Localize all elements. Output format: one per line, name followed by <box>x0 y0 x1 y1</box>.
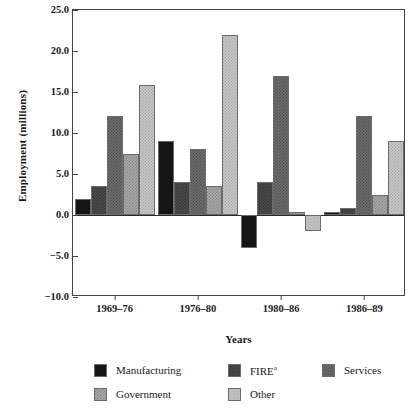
bar-manufacturing-1980–86 <box>241 215 257 248</box>
x-tick-label: 1980–86 <box>263 303 300 314</box>
x-tick-mark <box>281 295 282 300</box>
legend-item-manufacturing[interactable]: Manufacturing <box>94 358 228 382</box>
bar-other-1986–89 <box>388 141 404 215</box>
y-tick-mark <box>73 92 78 93</box>
y-tick-mark <box>73 215 78 216</box>
legend-label-fire: FIREa <box>250 364 277 377</box>
y-tick-label: 15.0 <box>51 87 73 98</box>
chart-legend: ManufacturingFIREaServicesGovernmentOthe… <box>0 358 419 406</box>
bar-services-1976–80 <box>190 149 206 215</box>
y-tick-label: 25.0 <box>51 5 73 16</box>
plot-area: 25.020.015.010.05.00.0−5.0−10.0 1969–761… <box>72 9 405 296</box>
zero-line <box>73 215 404 216</box>
bar-other-1980–86 <box>305 215 321 231</box>
legend-label-other: Other <box>250 388 275 400</box>
x-tick-label: 1969–76 <box>96 303 133 314</box>
legend-item-services[interactable]: Services <box>322 358 381 382</box>
bar-manufacturing-1969–76 <box>75 199 91 215</box>
bar-government-1986–89 <box>372 195 388 216</box>
bar-manufacturing-1986–89 <box>324 212 340 215</box>
legend-swatch-services <box>322 364 335 377</box>
bar-fire-1976–80 <box>174 182 190 215</box>
legend-swatch-other <box>228 388 241 401</box>
bar-services-1980–86 <box>273 76 289 215</box>
bar-government-1980–86 <box>289 212 305 215</box>
y-tick-mark <box>73 10 78 11</box>
legend-swatch-fire <box>228 364 241 377</box>
bar-services-1986–89 <box>356 116 372 215</box>
legend-label-services: Services <box>344 364 381 376</box>
employment-bar-chart: Employment (millions) 25.020.015.010.05.… <box>0 0 419 416</box>
x-tick: 1969–76 <box>96 295 133 314</box>
legend-footnote-marker: a <box>274 364 277 372</box>
x-tick-mark <box>114 295 115 300</box>
y-tick-label: 0.0 <box>56 210 73 221</box>
x-tick-label: 1986–89 <box>346 303 383 314</box>
y-tick-label: −5.0 <box>50 251 73 262</box>
x-tick: 1976–80 <box>180 295 217 314</box>
bar-fire-1980–86 <box>257 182 273 215</box>
y-tick-label: 20.0 <box>51 46 73 57</box>
bar-fire-1969–76 <box>91 186 107 215</box>
x-tick-mark <box>364 295 365 300</box>
x-axis-title: Years <box>72 333 405 345</box>
x-tick-mark <box>197 295 198 300</box>
bar-other-1969–76 <box>139 85 155 215</box>
bar-government-1976–80 <box>206 186 222 215</box>
bar-government-1969–76 <box>123 154 139 216</box>
y-tick-mark <box>73 133 78 134</box>
legend-item-other[interactable]: Other <box>228 382 322 406</box>
legend-item-government[interactable]: Government <box>94 382 228 406</box>
y-tick-label: 10.0 <box>51 128 73 139</box>
y-tick-mark <box>73 174 78 175</box>
legend-swatch-government <box>94 388 107 401</box>
y-tick-label: 5.0 <box>56 169 73 180</box>
plot-inner <box>73 10 404 295</box>
legend-label-manufacturing: Manufacturing <box>116 364 181 376</box>
y-tick-label: −10.0 <box>45 292 73 303</box>
bar-fire-1986–89 <box>340 208 356 215</box>
bar-services-1969–76 <box>107 116 123 215</box>
legend-label-government: Government <box>116 388 171 400</box>
x-tick: 1980–86 <box>263 295 300 314</box>
y-axis-title: Employment (millions) <box>16 36 28 256</box>
x-tick: 1986–89 <box>346 295 383 314</box>
y-tick-mark <box>73 256 78 257</box>
legend-swatch-manufacturing <box>94 364 107 377</box>
x-tick-label: 1976–80 <box>180 303 217 314</box>
y-tick-mark <box>73 297 78 298</box>
y-tick-mark <box>73 51 78 52</box>
bar-manufacturing-1976–80 <box>158 141 174 215</box>
legend-item-fire[interactable]: FIREa <box>228 358 322 382</box>
bar-other-1976–80 <box>222 35 238 215</box>
